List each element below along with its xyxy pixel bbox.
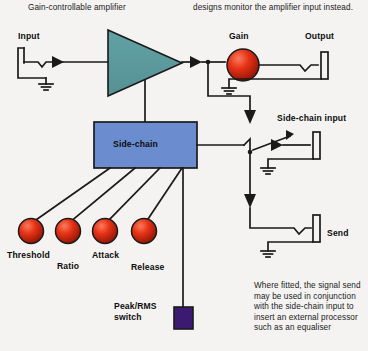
amp-output-arrow <box>190 56 202 68</box>
threshold-knob <box>19 219 44 244</box>
input-signal-arrow <box>52 56 64 68</box>
label-send: Send <box>327 228 349 238</box>
send-jack-body <box>313 215 320 242</box>
input-jack-body <box>18 48 46 78</box>
send-arrow <box>244 194 256 208</box>
label-peak-rms-switch-line2: switch <box>114 312 142 322</box>
output-jack-body <box>321 52 328 79</box>
signal-flow-schematic <box>0 0 368 351</box>
sidechain-feed-arrow <box>244 110 256 124</box>
release-knob <box>132 219 157 244</box>
peak-rms-switch <box>174 307 193 329</box>
diagram-canvas: Gain-controllable amplifier designs moni… <box>0 0 368 351</box>
label-output: Output <box>305 31 334 41</box>
label-ratio: Ratio <box>57 261 79 271</box>
label-side-chain-box: Side-chain <box>113 139 158 149</box>
wire-send <box>250 208 311 234</box>
label-side-chain-input: Side-chain input <box>277 113 346 123</box>
label-peak-rms-switch-line1: Peak/RMS <box>114 301 157 311</box>
sidechain-blade-arrow <box>286 130 294 140</box>
wire-to-threshold <box>33 168 110 222</box>
label-input: Input <box>18 31 40 41</box>
label-threshold: Threshold <box>7 250 50 260</box>
label-release: Release <box>131 262 165 272</box>
sidechain-jack-body <box>313 132 320 159</box>
ratio-knob <box>56 219 81 244</box>
label-attack: Attack <box>92 250 119 260</box>
gain-knob <box>227 49 259 81</box>
wire-to-ratio <box>70 168 135 222</box>
wire-gain-to-output <box>259 65 318 71</box>
attack-knob <box>93 219 118 244</box>
label-gain: Gain <box>229 31 249 41</box>
